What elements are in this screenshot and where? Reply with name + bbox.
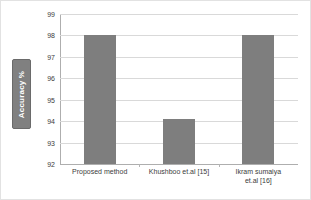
y-axis-title-label: Accuracy %: [17, 70, 26, 117]
x-label-line: Proposed method: [60, 167, 139, 176]
y-tick-label-97: 97: [31, 53, 55, 60]
y-axis-tick-labels: 9998979695949392: [29, 14, 55, 164]
y-tick-label-98: 98: [31, 32, 55, 39]
x-axis-category-labels: Proposed methodKhushboo et.al [15]Ikram …: [60, 167, 298, 199]
x-category-label-0: Proposed method: [60, 167, 139, 176]
bar-1: [163, 119, 195, 164]
x-label-line: Khushboo et.al [15]: [139, 167, 218, 176]
y-tick-label-94: 94: [31, 118, 55, 125]
plot-area: [60, 14, 298, 164]
x-tick-1: [139, 164, 140, 167]
y-tick-label-93: 93: [31, 139, 55, 146]
gridlines-and-bars: [60, 14, 298, 164]
bar-0: [84, 35, 116, 164]
x-category-label-1: Khushboo et.al [15]: [139, 167, 218, 176]
y-tick-label-95: 95: [31, 96, 55, 103]
gridline-99: [60, 14, 298, 15]
x-label-line: Ikram sumaiya: [219, 167, 298, 176]
y-tick-label-96: 96: [31, 75, 55, 82]
x-category-label-2: Ikram sumaiyaet.al [16]: [219, 167, 298, 185]
bar-2: [242, 35, 274, 164]
gridline-92: [60, 164, 298, 165]
y-tick-label-92: 92: [31, 161, 55, 168]
bar-chart-figure: Accuracy % 9998979695949392 Proposed met…: [0, 0, 311, 200]
x-tick-2: [219, 164, 220, 167]
x-label-line: et.al [16]: [219, 176, 298, 185]
y-tick-label-99: 99: [31, 11, 55, 18]
